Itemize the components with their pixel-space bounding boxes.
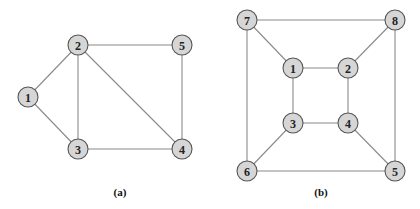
node-label: 7 bbox=[244, 14, 250, 28]
node-label: 4 bbox=[345, 117, 351, 131]
node-b-6: 6 bbox=[237, 161, 257, 181]
node-label: 5 bbox=[179, 39, 185, 53]
node-label: 1 bbox=[25, 91, 31, 105]
node-b-2: 2 bbox=[338, 58, 358, 78]
node-label: 2 bbox=[345, 62, 351, 76]
node-b-7: 7 bbox=[237, 10, 257, 30]
node-label: 5 bbox=[392, 165, 398, 179]
node-a-4: 4 bbox=[172, 139, 192, 159]
node-label: 1 bbox=[290, 62, 296, 76]
edge-a-2-4 bbox=[78, 45, 182, 149]
node-b-1: 1 bbox=[283, 58, 303, 78]
node-a-1: 1 bbox=[18, 87, 38, 107]
node-b-4: 4 bbox=[338, 113, 358, 133]
node-label: 8 bbox=[392, 14, 398, 28]
edge-a-1-3 bbox=[28, 97, 78, 149]
edge-a-1-2 bbox=[28, 45, 78, 97]
nodes-layer: 1253478123465 bbox=[18, 10, 405, 181]
caption-a: (a) bbox=[114, 186, 127, 199]
node-label: 2 bbox=[75, 39, 81, 53]
node-label: 3 bbox=[290, 117, 296, 131]
node-b-3: 3 bbox=[283, 113, 303, 133]
caption-b: (b) bbox=[314, 186, 328, 199]
graph-canvas: 1253478123465 (a)(b) bbox=[0, 0, 420, 209]
node-label: 3 bbox=[75, 143, 81, 157]
node-a-3: 3 bbox=[68, 139, 88, 159]
captions-layer: (a)(b) bbox=[114, 186, 328, 199]
node-a-2: 2 bbox=[68, 35, 88, 55]
node-label: 6 bbox=[244, 165, 250, 179]
node-label: 4 bbox=[179, 143, 185, 157]
node-b-8: 8 bbox=[385, 10, 405, 30]
node-b-5: 5 bbox=[385, 161, 405, 181]
node-a-5: 5 bbox=[172, 35, 192, 55]
